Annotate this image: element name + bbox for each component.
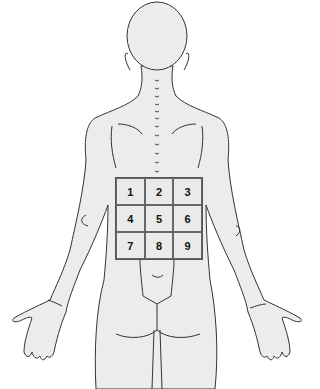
region-cell-3[interactable]: 3 bbox=[173, 178, 202, 205]
region-cell-5[interactable]: 5 bbox=[145, 205, 174, 232]
back-region-grid: 1 2 3 4 5 6 7 8 9 bbox=[115, 177, 203, 260]
region-cell-4[interactable]: 4 bbox=[116, 205, 145, 232]
region-cell-6[interactable]: 6 bbox=[173, 205, 202, 232]
region-cell-8[interactable]: 8 bbox=[145, 232, 174, 259]
region-cell-7[interactable]: 7 bbox=[116, 232, 145, 259]
region-cell-2[interactable]: 2 bbox=[145, 178, 174, 205]
region-cell-1[interactable]: 1 bbox=[116, 178, 145, 205]
head bbox=[127, 2, 187, 70]
region-cell-9[interactable]: 9 bbox=[173, 232, 202, 259]
